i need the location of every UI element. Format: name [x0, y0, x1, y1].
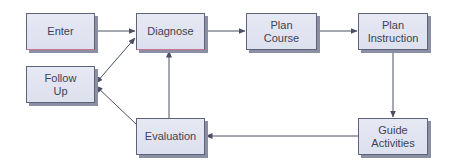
node-enter: Enter — [26, 13, 95, 50]
node-label: Enter — [47, 25, 73, 38]
node-diagnose: Diagnose — [136, 13, 205, 50]
node-guide-activities: Guide Activities — [358, 118, 428, 155]
node-evaluation: Evaluation — [136, 118, 205, 155]
arrow-evaluation-to-follow-up — [96, 86, 136, 124]
node-label: Evaluation — [145, 130, 196, 143]
node-plan-course: Plan Course — [246, 13, 317, 50]
node-label: Guide Activities — [371, 124, 414, 150]
node-plan-instruction: Plan Instruction — [358, 13, 428, 50]
node-label: Plan Instruction — [368, 19, 419, 45]
node-label: Diagnose — [147, 25, 193, 38]
node-label: Plan Course — [264, 19, 299, 45]
flowchart-diagram: Enter Diagnose Plan Course Plan Instruct… — [0, 0, 451, 167]
node-label: Follow Up — [45, 72, 77, 98]
node-follow-up: Follow Up — [26, 66, 95, 103]
arrow-follow-up-to-diagnose — [96, 38, 135, 83]
